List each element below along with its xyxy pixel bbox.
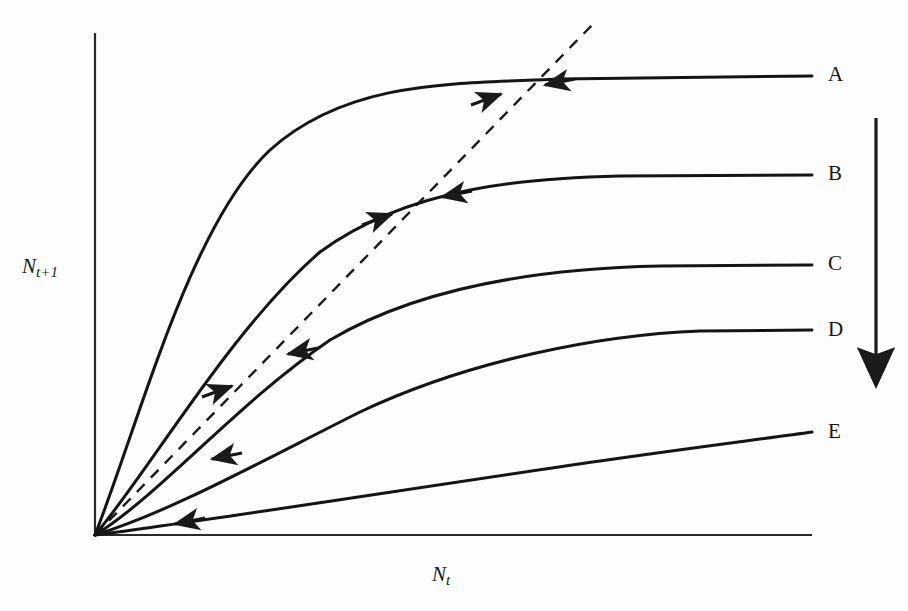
y-axis-label-subscript: t+1 [36, 264, 58, 280]
x-axis-label-subscript: t [446, 572, 450, 588]
x-axis-label: Nt [432, 562, 450, 589]
curve-b [95, 175, 812, 535]
equilibrium-arrow-a-0 [471, 94, 501, 105]
curve-label-e: E [828, 419, 841, 444]
equilibrium-arrow-group [175, 79, 575, 524]
curve-c [95, 265, 812, 535]
x-axis-label-main: N [432, 562, 446, 586]
y-axis-label: Nt+1 [22, 254, 58, 281]
curve-label-c: C [828, 251, 842, 276]
curve-label-a: A [828, 62, 843, 87]
curves-group [95, 76, 812, 535]
y-axis-label-main: N [22, 254, 36, 278]
equilibrium-arrow-b-0 [362, 214, 392, 225]
axes-group [94, 33, 812, 536]
plot-canvas [0, 0, 908, 611]
curve-label-b: B [828, 161, 842, 186]
curve-label-d: D [828, 317, 843, 342]
equilibrium-arrow-c-0 [202, 386, 232, 397]
equilibrium-arrow-d-0 [212, 453, 242, 459]
curve-a [95, 76, 812, 535]
figure-root: Nt+1 Nt ABCDE [0, 0, 908, 611]
curve-d [95, 330, 812, 535]
